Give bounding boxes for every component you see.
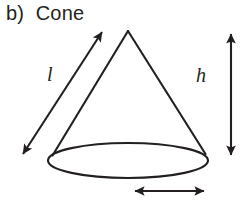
cone-diagram: l h — [0, 0, 240, 205]
cone-right-slant-line — [128, 31, 206, 154]
height-label: h — [196, 64, 206, 86]
cone-figure: b) Cone l h — [0, 0, 240, 205]
slant-height-label: l — [47, 63, 53, 85]
cone-shape-icon — [48, 31, 208, 178]
cone-base-ellipse — [48, 143, 208, 178]
